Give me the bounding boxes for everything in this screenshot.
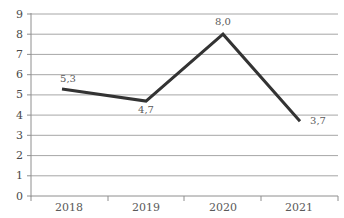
x-tick-label-2020: 2020 bbox=[209, 201, 237, 214]
y-tick-label-9: 9 bbox=[16, 8, 23, 21]
y-tick-label-4: 4 bbox=[16, 109, 23, 122]
y-tickmarks bbox=[27, 14, 31, 196]
y-tick-label-0: 0 bbox=[16, 190, 23, 203]
x-tick-labels: 2018 2019 2020 2021 bbox=[55, 201, 313, 214]
y-tick-label-7: 7 bbox=[16, 48, 23, 61]
x-tick-label-2021: 2021 bbox=[285, 201, 313, 214]
y-tick-labels: 9 8 7 6 5 4 3 2 1 0 bbox=[16, 8, 23, 203]
y-tick-label-5: 5 bbox=[16, 88, 23, 101]
line-chart: - -- - -- -- - - - -- -- -- -- bbox=[0, 0, 344, 218]
y-tick-label-3: 3 bbox=[16, 129, 23, 142]
y-tick-label-8: 8 bbox=[16, 28, 23, 41]
x-tick-label-2019: 2019 bbox=[132, 201, 160, 214]
data-label-2020: 8,0 bbox=[215, 16, 231, 27]
data-label-2021: 3,7 bbox=[310, 115, 326, 126]
chart-canvas: 9 8 7 6 5 4 3 2 1 0 2018 2019 2020 2021 bbox=[0, 0, 344, 218]
y-tick-label-2: 2 bbox=[16, 149, 23, 162]
x-tick-label-2018: 2018 bbox=[55, 201, 83, 214]
y-tick-label-6: 6 bbox=[16, 68, 23, 81]
y-tick-label-1: 1 bbox=[16, 169, 23, 182]
data-label-2019: 4,7 bbox=[138, 104, 154, 115]
data-label-2018: 5,3 bbox=[60, 73, 76, 84]
plot-area-background bbox=[31, 13, 338, 197]
